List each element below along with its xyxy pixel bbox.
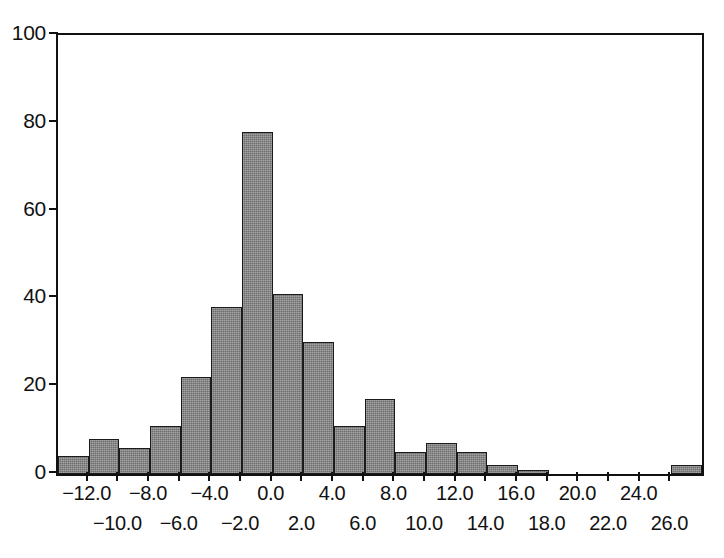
x-axis-tick xyxy=(576,472,578,481)
x-axis-tick xyxy=(178,472,180,481)
histogram-bar xyxy=(242,132,273,474)
x-axis-tick xyxy=(515,472,517,481)
histogram-bar xyxy=(395,452,426,474)
histogram-bar xyxy=(303,342,334,474)
x-axis-tick xyxy=(239,472,241,481)
histogram-bar xyxy=(150,426,181,474)
x-axis-tick xyxy=(86,472,88,481)
y-axis-tick xyxy=(49,32,58,34)
histogram-bar xyxy=(518,470,549,474)
histogram-bar xyxy=(211,307,242,474)
histogram-bar xyxy=(58,456,89,474)
histogram-chart: 020406080100−12.0−8.0−4.00.04.08.012.016… xyxy=(0,0,724,558)
x-axis-tick xyxy=(638,472,640,481)
histogram-bar xyxy=(334,426,365,474)
histogram-bar xyxy=(273,294,304,474)
y-axis-label: 80 xyxy=(0,110,46,131)
y-axis-label: 0 xyxy=(0,461,46,482)
x-axis-tick xyxy=(300,472,302,481)
x-axis-tick xyxy=(147,472,149,481)
x-axis-label-lower: 26.0 xyxy=(614,513,724,533)
x-axis-tick xyxy=(362,472,364,481)
histogram-bar xyxy=(671,465,702,474)
x-axis-tick xyxy=(392,472,394,481)
x-axis-tick xyxy=(208,472,210,481)
histogram-bar xyxy=(181,377,212,474)
histogram-bar xyxy=(457,452,488,474)
y-axis-tick xyxy=(49,295,58,297)
x-axis-tick xyxy=(423,472,425,481)
x-axis-tick xyxy=(116,472,118,481)
x-axis-tick xyxy=(331,472,333,481)
histogram-bar xyxy=(365,399,396,474)
plot-area xyxy=(56,33,704,476)
y-axis-tick xyxy=(49,208,58,210)
bars-layer xyxy=(58,35,702,474)
y-axis-tick xyxy=(49,471,58,473)
x-axis-label-upper: 24.0 xyxy=(584,483,694,503)
y-axis-tick xyxy=(49,383,58,385)
histogram-bar xyxy=(119,448,150,474)
x-axis-tick xyxy=(607,472,609,481)
histogram-bar xyxy=(426,443,457,474)
x-axis-tick xyxy=(270,472,272,481)
y-axis-tick xyxy=(49,120,58,122)
histogram-bar xyxy=(487,465,518,474)
x-axis-tick xyxy=(454,472,456,481)
y-axis-label: 60 xyxy=(0,198,46,219)
y-axis-label: 40 xyxy=(0,285,46,306)
x-axis-tick xyxy=(668,472,670,481)
x-axis-tick xyxy=(546,472,548,481)
histogram-bar xyxy=(89,439,120,474)
y-axis-label: 20 xyxy=(0,373,46,394)
x-axis-tick xyxy=(484,472,486,481)
y-axis-label: 100 xyxy=(0,22,46,43)
